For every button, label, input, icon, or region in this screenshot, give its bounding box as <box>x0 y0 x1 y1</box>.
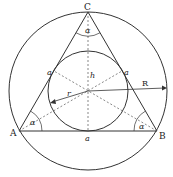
geometry-diagram: C A B α α α a a a h r R <box>0 0 173 177</box>
vertex-A-label: A <box>9 128 17 138</box>
arrowhead-icon <box>162 86 167 91</box>
vertex-B-label: B <box>159 131 166 141</box>
circumradius-label: R <box>142 79 149 88</box>
circumradius-arrow <box>88 88 165 91</box>
angle-C-label: α <box>85 26 91 35</box>
vertex-C-label: C <box>84 2 91 12</box>
arrowhead-icon <box>50 99 56 104</box>
height-label: h <box>90 71 95 80</box>
side-a-bottom-label: a <box>85 134 90 143</box>
angle-B-label: α <box>139 122 145 131</box>
side-a-left-label: a <box>47 68 52 77</box>
inradius-label: r <box>67 89 72 98</box>
angle-A-label: α <box>30 118 36 127</box>
side-a-right-label: a <box>124 68 129 77</box>
